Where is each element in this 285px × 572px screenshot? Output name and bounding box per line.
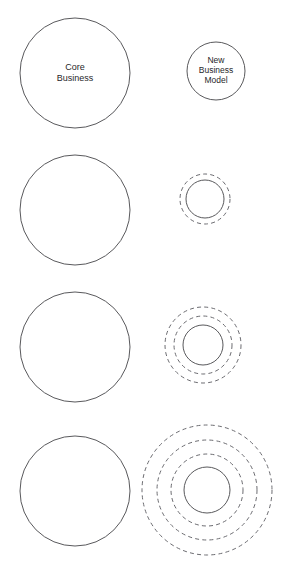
core-business-circle — [20, 292, 130, 402]
new-business-model-circle — [183, 325, 223, 365]
new-business-model-circle — [184, 467, 230, 513]
business-growth-diagram: CoreBusinessNewBusinessModel — [0, 0, 285, 572]
core-business-circle — [20, 436, 130, 546]
diagram-canvas: CoreBusinessNewBusinessModel — [0, 0, 285, 572]
core-business-circle — [20, 155, 130, 265]
circle-label-line: Business — [199, 65, 234, 75]
new-business-model-circle — [186, 180, 224, 218]
diagram-row — [20, 155, 230, 265]
circle-label-line: Core — [65, 62, 85, 72]
circle-label-line: Model — [204, 75, 227, 85]
circle-label-line: Business — [57, 73, 94, 83]
circle-label-line: New — [207, 55, 225, 65]
diagram-row — [20, 292, 241, 402]
diagram-row: CoreBusinessNewBusinessModel — [20, 18, 245, 128]
diagram-row — [20, 425, 272, 555]
